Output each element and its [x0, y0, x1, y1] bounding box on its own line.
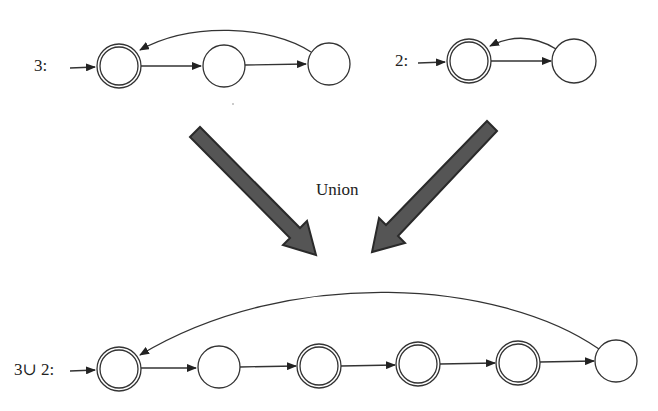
automaton-3: [70, 30, 350, 88]
transition: [245, 64, 306, 65]
loop-back-transition: [140, 292, 599, 355]
state: [203, 45, 245, 87]
loop-back-transition: [490, 38, 556, 49]
loop-back-transition: [140, 30, 311, 52]
transition: [440, 363, 495, 364]
start-arrow: [70, 67, 95, 68]
automaton-3-label: 3:: [34, 56, 47, 76]
big-arrow-right: [372, 121, 497, 252]
state-accepting: [396, 342, 440, 386]
state-accepting: [97, 44, 141, 88]
big-arrow-left: [190, 127, 316, 255]
union-label: Union: [316, 180, 359, 200]
start-arrow: [70, 370, 95, 371]
state: [308, 43, 350, 85]
state-accepting: [297, 344, 341, 388]
automaton-2: [418, 38, 596, 83]
state: [198, 346, 240, 388]
transition: [540, 361, 594, 362]
state: [595, 340, 637, 382]
state-accepting: [97, 347, 141, 391]
start-arrow: [418, 62, 445, 63]
state-accepting: [496, 341, 540, 385]
state-accepting: [447, 39, 491, 83]
speck: [232, 103, 234, 105]
state: [552, 39, 596, 83]
automaton-union: [70, 292, 637, 391]
transition: [240, 366, 296, 367]
automaton-2-label: 2:: [395, 51, 408, 71]
automaton-union-label: 3∪ 2:: [14, 359, 54, 380]
automata-diagram: [0, 0, 658, 411]
transition: [341, 365, 395, 366]
